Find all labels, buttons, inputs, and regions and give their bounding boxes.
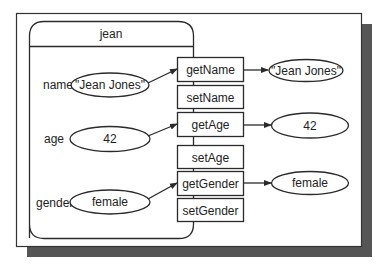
method-getname: getName xyxy=(178,58,244,82)
svg-text:female: female xyxy=(92,195,128,209)
return-value-name: "Jean Jones" xyxy=(269,60,343,82)
svg-text:42: 42 xyxy=(303,119,317,133)
svg-text:female: female xyxy=(292,176,328,190)
svg-text:setName: setName xyxy=(186,91,234,105)
svg-text:getAge: getAge xyxy=(191,118,229,132)
field-value-gender: female xyxy=(70,190,150,214)
svg-text:"Jean Jones": "Jean Jones" xyxy=(271,64,341,78)
svg-text:getGender: getGender xyxy=(182,177,239,191)
svg-text:setAge: setAge xyxy=(192,151,230,165)
object-encapsulation-diagram: jean name age gender "Jean Jones" 42 fem… xyxy=(0,0,383,269)
svg-text:getName: getName xyxy=(186,63,235,77)
svg-text:42: 42 xyxy=(103,132,117,146)
method-getage: getAge xyxy=(178,113,244,137)
return-value-gender: female xyxy=(272,172,349,195)
object-title: jean xyxy=(99,27,123,41)
field-value-name: "Jean Jones" xyxy=(71,73,149,97)
svg-text:setGender: setGender xyxy=(182,204,238,218)
method-setgender: setGender xyxy=(178,199,244,222)
field-value-age: 42 xyxy=(70,127,150,152)
method-getgender: getGender xyxy=(178,172,244,196)
field-label-age: age xyxy=(44,132,64,146)
field-label-gender: gender xyxy=(36,196,73,210)
field-label-name: name xyxy=(43,78,73,92)
return-value-age: 42 xyxy=(272,113,349,138)
method-setage: setAge xyxy=(178,146,244,169)
method-setname: setName xyxy=(178,86,244,109)
svg-text:"Jean Jones": "Jean Jones" xyxy=(75,78,145,92)
